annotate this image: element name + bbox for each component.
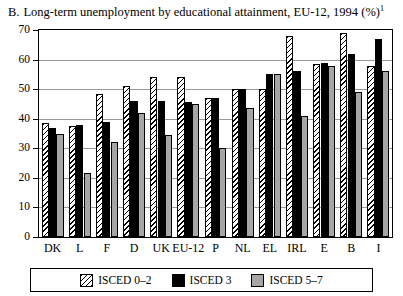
bar-group-b (340, 30, 362, 237)
bar-l-series-2 (76, 125, 83, 237)
chart-title: B.Long-term unemployment by educational … (8, 2, 384, 19)
bar-group-l (69, 30, 91, 237)
bar-d-series-2 (130, 101, 137, 237)
chart-title-letter: B. (8, 5, 19, 19)
bar-eu-12-series-1 (177, 77, 184, 237)
x-tick-label-i: I (376, 241, 380, 255)
bar-group-i (367, 30, 389, 237)
bar-d-series-1 (123, 86, 130, 237)
bar-group-e (313, 30, 335, 237)
y-tick-label-40: 40 (19, 113, 31, 125)
legend-swatch-isced02-icon (80, 274, 93, 287)
bar-dk-series-2 (49, 128, 56, 237)
y-tick-label-10: 10 (19, 202, 31, 214)
y-tick-label-70: 70 (19, 24, 31, 36)
x-tick-label-e: E (320, 241, 327, 255)
bar-e-series-3 (328, 66, 335, 238)
y-tick-label-0: 0 (24, 231, 30, 243)
bar-l-series-3 (84, 173, 91, 237)
x-tick-label-d: D (130, 241, 139, 255)
x-tick-label-eu-12: EU-12 (172, 241, 204, 255)
bar-irl-series-1 (286, 36, 293, 237)
legend-label-3: ISCED 5–7 (269, 274, 322, 286)
chart-title-text: Long-term unemployment by educational at… (23, 5, 380, 19)
x-axis-labels: DKLFDUKEU-12PNLELIRLEBI (38, 241, 393, 259)
bar-i-series-1 (367, 66, 374, 238)
bars-layer (39, 30, 392, 237)
bar-dk-series-1 (42, 123, 49, 237)
y-tick-label-30: 30 (19, 143, 31, 155)
legend-label-2: ISCED 3 (190, 274, 232, 286)
bar-irl-series-3 (301, 116, 308, 237)
bar-el-series-3 (274, 74, 281, 237)
x-tick-label-f: F (104, 241, 111, 255)
bar-dk-series-3 (56, 134, 63, 238)
bar-nl-series-2 (239, 89, 246, 237)
bar-d-series-3 (138, 113, 145, 237)
legend-label-1: ISCED 0–2 (98, 274, 151, 286)
x-tick-label-uk: UK (153, 241, 170, 255)
y-tick-label-60: 60 (19, 54, 31, 66)
legend-item-1[interactable]: ISCED 0–2 (80, 274, 151, 287)
bar-f-series-1 (96, 94, 103, 237)
chart-title-footnote-marker: 1 (380, 4, 384, 13)
x-tick-label-nl: NL (235, 241, 251, 255)
chart-legend: ISCED 0–2ISCED 3ISCED 5–7 (30, 268, 373, 292)
legend-swatch-isced57-icon (251, 274, 264, 287)
bar-el-series-2 (266, 74, 273, 237)
legend-swatch-isced3-icon (172, 274, 185, 287)
bar-f-series-2 (103, 122, 110, 237)
bar-b-series-1 (340, 33, 347, 237)
bar-group-el (259, 30, 281, 237)
bar-b-series-3 (355, 92, 362, 237)
bar-irl-series-2 (293, 71, 300, 237)
legend-item-2[interactable]: ISCED 3 (172, 274, 232, 287)
y-tick-label-50: 50 (19, 83, 31, 95)
bar-group-nl (232, 30, 254, 237)
bar-uk-series-1 (150, 77, 157, 237)
bar-group-d (123, 30, 145, 237)
y-axis: 010203040506070 (0, 29, 38, 238)
bar-p-series-3 (219, 148, 226, 237)
x-tick-label-b: B (347, 241, 355, 255)
bar-group-uk (150, 30, 172, 237)
bar-nl-series-1 (232, 89, 239, 237)
x-tick-label-l: L (76, 241, 83, 255)
x-tick-label-dk: DK (44, 241, 61, 255)
bar-eu-12-series-2 (185, 102, 192, 237)
bar-group-dk (42, 30, 64, 237)
bar-i-series-2 (375, 39, 382, 237)
bar-uk-series-2 (158, 101, 165, 237)
bar-nl-series-3 (246, 108, 253, 237)
x-tick-label-p: P (212, 241, 219, 255)
bar-uk-series-3 (165, 135, 172, 237)
bar-group-f (96, 30, 118, 237)
bar-b-series-2 (348, 54, 355, 237)
bar-group-p (205, 30, 227, 237)
bar-group-irl (286, 30, 308, 237)
bar-e-series-1 (313, 64, 320, 237)
y-tick-label-20: 20 (19, 172, 31, 184)
x-tick-label-el: EL (262, 241, 277, 255)
bar-e-series-2 (321, 63, 328, 237)
x-tick-label-irl: IRL (287, 241, 306, 255)
bar-i-series-3 (382, 71, 389, 237)
bar-el-series-1 (259, 89, 266, 237)
bar-eu-12-series-3 (192, 104, 199, 237)
bar-l-series-1 (69, 126, 76, 237)
bar-f-series-3 (111, 142, 118, 237)
bar-p-series-2 (212, 98, 219, 237)
legend-item-3[interactable]: ISCED 5–7 (251, 274, 322, 287)
bar-p-series-1 (205, 98, 212, 237)
bar-group-eu-12 (177, 30, 199, 237)
